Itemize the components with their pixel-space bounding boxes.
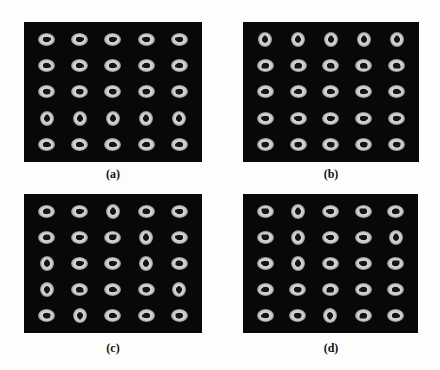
donut-beam-spot [106,111,120,126]
donut-beam-spot [104,33,121,46]
donut-beam-spot [138,33,155,46]
donut-beam-spot [139,230,153,245]
donut-beam-spot [139,111,153,126]
donut-beam-spot [258,32,272,47]
donut-beam-spot [104,85,121,98]
donut-beam-spot [171,257,188,270]
donut-beam-spot [71,257,88,270]
donut-beam-spot [138,283,155,296]
donut-beam-spot [257,283,274,296]
donut-beam-spot [38,33,55,46]
donut-beam-spot [322,283,339,296]
caption-d: (d) [311,341,351,356]
donut-beam-spot [387,205,404,218]
beam-array-panel-d [243,194,418,333]
donut-beam-spot [138,138,155,151]
donut-beam-spot [171,138,188,151]
donut-beam-spot [106,204,120,219]
donut-beam-spot [290,138,307,151]
donut-beam-spot [71,231,88,244]
donut-beam-spot [71,138,88,151]
donut-beam-spot [291,256,305,271]
donut-beam-spot [38,205,55,218]
donut-beam-spot [138,59,155,72]
donut-beam-spot [388,59,405,72]
donut-beam-spot [290,59,307,72]
donut-beam-spot [355,205,372,218]
donut-beam-spot [71,59,88,72]
donut-beam-spot [290,85,307,98]
donut-beam-spot [171,231,188,244]
donut-beam-spot [357,32,371,47]
donut-beam-spot [40,256,54,271]
donut-beam-spot [355,283,372,296]
donut-beam-spot [257,138,274,151]
donut-beam-spot [171,205,188,218]
donut-beam-spot [104,283,121,296]
donut-beam-spot [387,257,404,270]
donut-beam-spot [73,111,87,126]
donut-beam-spot [138,205,155,218]
donut-beam-spot [104,138,121,151]
donut-beam-spot [138,85,155,98]
donut-beam-spot [257,257,274,270]
donut-beam-spot [172,282,186,297]
donut-beam-spot [324,32,338,47]
donut-beam-spot [387,283,404,296]
donut-beam-spot [355,231,372,244]
donut-beam-spot [104,309,121,322]
beam-array-panel-b [243,22,419,162]
donut-beam-spot [291,230,305,245]
donut-beam-spot [355,138,372,151]
donut-beam-spot [71,283,88,296]
donut-beam-spot [388,85,405,98]
donut-beam-spot [257,205,274,218]
donut-beam-spot [388,138,405,151]
donut-beam-spot [104,257,121,270]
donut-beam-spot [322,85,339,98]
donut-beam-spot [323,308,337,323]
donut-beam-spot [139,256,153,271]
donut-beam-spot [322,138,339,151]
donut-beam-spot [389,230,403,245]
donut-beam-spot [104,231,121,244]
donut-beam-spot [38,231,55,244]
donut-beam-spot [355,309,372,322]
donut-beam-spot [355,85,372,98]
donut-beam-spot [71,33,88,46]
donut-beam-spot [290,112,307,125]
donut-beam-spot [322,112,339,125]
donut-beam-spot [257,231,274,244]
donut-beam-spot [387,309,404,322]
donut-beam-spot [73,308,87,323]
beam-array-panel-c [24,194,202,333]
donut-beam-spot [171,33,188,46]
donut-beam-spot [322,59,339,72]
caption-b: (b) [311,167,351,182]
donut-beam-spot [38,309,55,322]
donut-beam-spot [71,205,88,218]
beam-array-panel-a [24,22,202,162]
donut-beam-spot [322,205,339,218]
donut-beam-spot [355,257,372,270]
donut-beam-spot [355,59,372,72]
donut-beam-spot [104,59,121,72]
donut-beam-spot [40,111,54,126]
donut-beam-spot [291,204,305,219]
donut-beam-spot [257,85,274,98]
donut-beam-spot [172,111,186,126]
donut-beam-spot [291,32,305,47]
donut-beam-spot [71,85,88,98]
donut-beam-spot [289,283,306,296]
donut-beam-spot [322,231,339,244]
donut-beam-spot [257,59,274,72]
donut-beam-spot [40,282,54,297]
donut-beam-spot [171,85,188,98]
donut-beam-spot [171,59,188,72]
donut-beam-spot [138,309,155,322]
donut-beam-spot [390,32,404,47]
donut-beam-spot [171,309,188,322]
donut-beam-spot [322,257,339,270]
donut-beam-spot [355,112,372,125]
donut-beam-spot [257,309,274,322]
